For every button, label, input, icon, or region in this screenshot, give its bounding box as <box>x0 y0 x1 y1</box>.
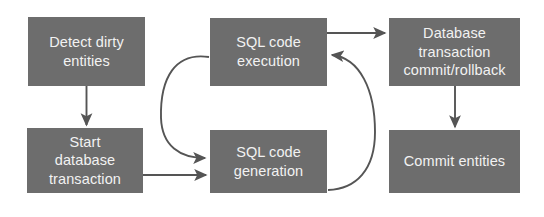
node-commit-entities[interactable]: Commit entities <box>389 130 520 193</box>
node-label: Database transaction commit/rollback <box>403 24 505 80</box>
edge-sql-generation-to-sql-execution <box>328 55 375 190</box>
node-database-transaction-commit-rollback[interactable]: Database transaction commit/rollback <box>389 18 520 86</box>
node-start-database-transaction[interactable]: Start database transaction <box>27 128 143 193</box>
node-sql-code-generation[interactable]: SQL code generation <box>210 130 327 193</box>
node-sql-code-execution[interactable]: SQL code execution <box>210 18 327 86</box>
node-label: SQL code execution <box>236 33 301 70</box>
node-label: SQL code generation <box>234 143 304 180</box>
node-label: Start database transaction <box>49 133 121 189</box>
edge-sql-execution-to-sql-generation <box>161 56 209 158</box>
node-detect-dirty-entities[interactable]: Detect dirty entities <box>28 17 145 86</box>
node-label: Commit entities <box>404 152 505 171</box>
flowchart-diagram: Detect dirty entities Start database tra… <box>0 0 544 217</box>
node-label: Detect dirty entities <box>49 33 124 70</box>
